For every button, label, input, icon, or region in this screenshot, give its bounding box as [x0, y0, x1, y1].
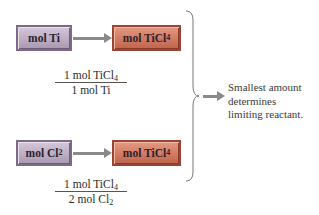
factor-denominator: 1 mol Ti: [55, 83, 127, 97]
mol-ticl4-label: mol TiCl: [123, 147, 166, 159]
result-arrow-icon: [203, 95, 218, 98]
mol-ticl4-label: mol TiCl: [123, 32, 166, 44]
factor-denominator: 2 mol Cl2: [55, 192, 127, 206]
factor-numerator: 1 mol TiCl4: [55, 68, 127, 83]
mol-ti-label: mol Ti: [28, 32, 60, 44]
arrow-icon: [73, 37, 105, 40]
curly-brace-icon: [185, 10, 201, 182]
mol-ticl4-box-1: mol TiCl4: [112, 25, 181, 51]
mol-ticl4-box-2: mol TiCl4: [112, 140, 181, 166]
conversion-factor-2: 1 mol TiCl4 2 mol Cl2: [55, 177, 127, 206]
mol-cl2-box: mol Cl2: [16, 140, 72, 166]
arrow-icon: [73, 152, 105, 155]
factor-numerator: 1 mol TiCl4: [55, 177, 127, 192]
conversion-factor-1: 1 mol TiCl4 1 mol Ti: [55, 68, 127, 97]
conclusion-text: Smallest amount determines limiting reac…: [228, 81, 303, 122]
mol-ti-box: mol Ti: [16, 25, 72, 51]
conclusion-line-1: Smallest amount: [228, 81, 303, 95]
conclusion-line-2: determines: [228, 95, 303, 109]
mol-cl2-label: mol Cl: [26, 147, 59, 159]
conclusion-line-3: limiting reactant.: [228, 108, 303, 122]
